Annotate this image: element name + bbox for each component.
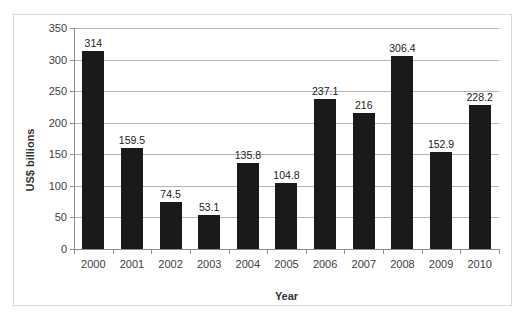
x-category-label: 2003: [197, 258, 221, 270]
y-tick-label: 50: [55, 211, 67, 223]
bar[interactable]: [82, 51, 104, 249]
y-tick-label: 100: [49, 180, 67, 192]
x-category-label: 2001: [120, 258, 144, 270]
y-tick-label: 250: [49, 85, 67, 97]
x-tick-mark: [267, 249, 268, 254]
x-tick-mark: [151, 249, 152, 254]
bar-value-label: 228.2: [467, 91, 493, 103]
bar-value-label: 104.8: [273, 169, 299, 181]
x-category-label: 2007: [352, 258, 376, 270]
x-category-label: 2008: [390, 258, 414, 270]
y-axis-title: US$ billions: [24, 100, 36, 220]
x-tick-mark: [422, 249, 423, 254]
x-tick-mark: [113, 249, 114, 254]
x-category-label: 2000: [81, 258, 105, 270]
x-category-label: 2004: [236, 258, 260, 270]
x-category-label: 2010: [467, 258, 491, 270]
bar[interactable]: [237, 163, 259, 249]
bar-value-label: 314: [85, 37, 103, 49]
bar-group[interactable]: 306.42008: [383, 28, 422, 249]
bar-value-label: 152.9: [428, 138, 454, 150]
y-tick-label: 0: [61, 243, 67, 255]
bar-value-label: 159.5: [119, 134, 145, 146]
x-category-label: 2006: [313, 258, 337, 270]
bar[interactable]: [469, 105, 491, 249]
plot-area: 050100150200250300350 3142000159.5200174…: [74, 28, 499, 249]
bar-group[interactable]: 228.22010: [460, 28, 499, 249]
bar-value-label: 74.5: [160, 188, 180, 200]
y-tick-label: 200: [49, 117, 67, 129]
bar-group[interactable]: 152.92009: [422, 28, 461, 249]
x-axis-title: Year: [74, 290, 499, 302]
bar-group[interactable]: 104.82005: [267, 28, 306, 249]
x-category-label: 2002: [158, 258, 182, 270]
x-tick-mark: [383, 249, 384, 254]
x-tick-mark: [344, 249, 345, 254]
bar[interactable]: [314, 99, 336, 249]
chart-figure: US$ billions 050100150200250300350 31420…: [13, 14, 512, 306]
bar-group[interactable]: 2162007: [344, 28, 383, 249]
bar[interactable]: [353, 113, 375, 249]
bar-group[interactable]: 3142000: [74, 28, 113, 249]
x-category-label: 2009: [429, 258, 453, 270]
bar-group[interactable]: 74.52002: [151, 28, 190, 249]
bar-value-label: 306.4: [389, 42, 415, 54]
bar-value-label: 216: [355, 99, 373, 111]
x-tick-mark: [306, 249, 307, 254]
bar-value-label: 237.1: [312, 85, 338, 97]
x-tick-mark: [229, 249, 230, 254]
bar-group[interactable]: 237.12006: [306, 28, 345, 249]
bar[interactable]: [275, 183, 297, 249]
gridline: [74, 249, 499, 250]
y-tick-label: 150: [49, 148, 67, 160]
bar-group[interactable]: 135.82004: [229, 28, 268, 249]
bar[interactable]: [160, 202, 182, 249]
x-tick-mark: [499, 249, 500, 254]
x-tick-mark: [460, 249, 461, 254]
x-tick-mark: [74, 249, 75, 254]
x-tick-mark: [190, 249, 191, 254]
bar-group[interactable]: 159.52001: [113, 28, 152, 249]
y-tick-label: 350: [49, 22, 67, 34]
bar-group[interactable]: 53.12003: [190, 28, 229, 249]
x-category-label: 2005: [274, 258, 298, 270]
bar[interactable]: [391, 56, 413, 249]
bar[interactable]: [430, 152, 452, 249]
y-tick-label: 300: [49, 54, 67, 66]
bar-value-label: 53.1: [199, 201, 219, 213]
bar[interactable]: [198, 215, 220, 249]
bar[interactable]: [121, 148, 143, 249]
bar-value-label: 135.8: [235, 149, 261, 161]
